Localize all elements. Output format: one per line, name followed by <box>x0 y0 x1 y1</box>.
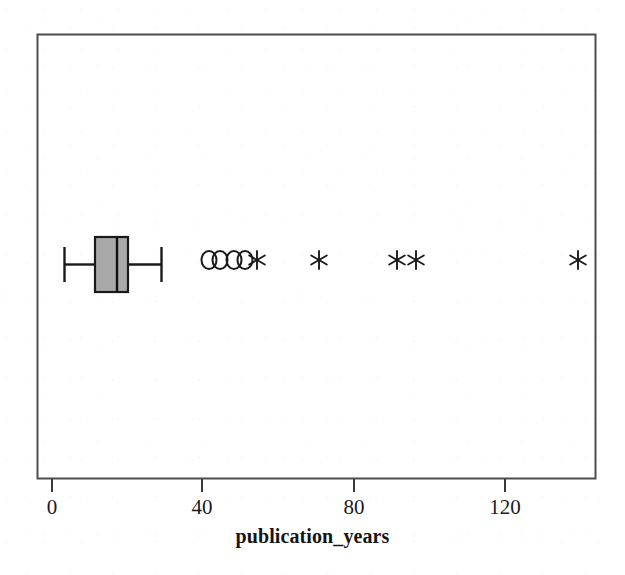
plot-canvas <box>0 0 625 575</box>
boxplot-figure: 0 40 80 120 publication_years <box>0 0 625 575</box>
x-tick-label-40: 40 <box>192 497 213 518</box>
x-tick-label-0: 0 <box>47 497 58 518</box>
box-iqr <box>95 237 128 292</box>
x-axis-title: publication_years <box>0 525 625 548</box>
x-axis-ticks <box>52 479 505 492</box>
x-tick-label-120: 120 <box>489 497 521 518</box>
x-tick-label-80: 80 <box>344 497 365 518</box>
